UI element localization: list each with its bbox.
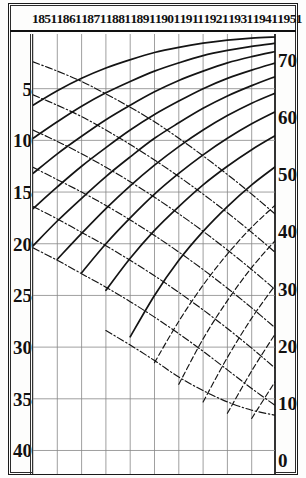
decade-label: 1871 (81, 5, 106, 32)
right-tick-label: 20 (278, 336, 297, 355)
right-tick-label: 50 (278, 165, 297, 184)
decade-label: 1881 (106, 5, 131, 32)
right-tick-label: 10 (278, 394, 297, 413)
chart-figure: 1851186118711881189119011911192119311941… (0, 0, 306, 478)
right-tick-label: 0 (278, 451, 288, 470)
decade-label: 1911 (180, 5, 204, 32)
decade-label: 1851 (32, 5, 57, 32)
decade-label: 1901 (155, 5, 180, 32)
plot-area (32, 34, 275, 474)
chart-curve (57, 93, 276, 259)
decade-label: 1941 (253, 5, 278, 32)
decade-label: 1921 (204, 5, 229, 32)
left-axis: 510152025303540 (11, 34, 32, 474)
chart-curve (203, 284, 276, 402)
curve-lattice (33, 34, 276, 474)
chart-curve (155, 204, 277, 362)
left-axis-rule (30, 34, 31, 474)
decade-label: 1861 (57, 5, 82, 32)
decade-label: 1931 (228, 5, 253, 32)
decade-label: 1891 (130, 5, 155, 32)
decade-label: 1951 (277, 5, 302, 32)
right-axis: 706050403020100 (276, 34, 297, 474)
right-tick-label: 40 (278, 222, 297, 241)
right-tick-label: 30 (278, 279, 297, 298)
chart-curve (106, 135, 276, 290)
right-tick-label: 60 (278, 108, 297, 127)
right-tick-label: 70 (278, 50, 297, 69)
decade-header-band: 1851186118711881189119011911192119311941… (10, 5, 296, 32)
decade-label-row: 1851186118711881189119011911192119311941… (32, 5, 275, 32)
